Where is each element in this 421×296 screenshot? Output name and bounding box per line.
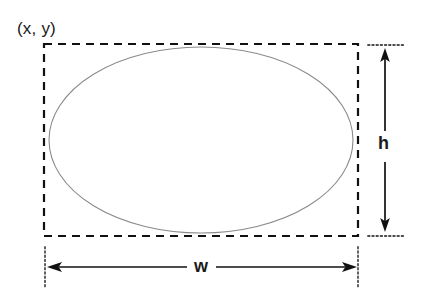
height-dimension-label: h [378, 133, 389, 154]
diagram-canvas [0, 0, 421, 296]
bounding-box-rect [44, 44, 358, 236]
origin-coordinate-label: (x, y) [17, 19, 56, 39]
ellipse-bounding-box-diagram: (x, y) h w [0, 0, 421, 296]
ellipse-shape [49, 47, 353, 233]
width-dimension-label: w [194, 256, 208, 277]
